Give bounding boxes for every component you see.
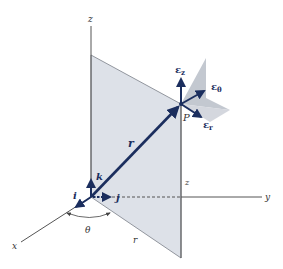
k-label: k	[96, 171, 103, 182]
point-p	[179, 102, 183, 106]
i-vector	[76, 197, 91, 207]
theta-label: θ	[85, 225, 91, 235]
cylindrical-coordinates-diagram: z x y z r θ r k j i εz εθ εr P	[0, 0, 283, 269]
radial-label: r	[133, 235, 138, 245]
tangent-plane-at-p	[181, 58, 230, 110]
theta-arc	[67, 213, 110, 218]
z-axis-label: z	[87, 14, 93, 24]
rz-plane	[91, 55, 181, 258]
height-label: z	[184, 178, 190, 187]
epsilon-theta-label: εθ	[211, 81, 222, 94]
epsilon-z-label: εz	[175, 64, 185, 77]
x-axis-label: x	[12, 241, 17, 251]
point-p-label: P	[182, 112, 190, 123]
y-axis-label: y	[264, 192, 271, 202]
i-label: i	[73, 190, 77, 201]
